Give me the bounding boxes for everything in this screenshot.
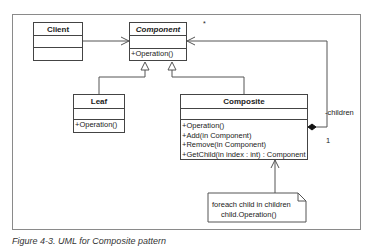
class-leaf: Leaf +Operation(): [73, 94, 125, 133]
class-client-operations: [34, 48, 82, 60]
class-component-operations: +Operation(): [130, 49, 186, 61]
operation: +Operation(): [75, 120, 123, 130]
class-client: Client: [33, 22, 83, 61]
class-composite-attributes: [181, 109, 307, 120]
class-client-attributes: [34, 36, 82, 48]
operation: +Remove(in Component): [182, 140, 306, 150]
class-leaf-attributes: [74, 109, 124, 120]
operation: +Operation(): [182, 121, 306, 131]
class-composite-operations: +Operation() +Add(in Component) +Remove(…: [181, 120, 307, 160]
operation: +Add(in Component): [182, 131, 306, 141]
class-component-name: Component: [130, 23, 186, 36]
note-line-2: child.Operation(): [212, 210, 291, 220]
multiplicity-many-label: *: [203, 20, 206, 27]
note-text: foreach child in children child.Operatio…: [212, 200, 291, 220]
class-leaf-name: Leaf: [74, 95, 124, 109]
class-composite-name: Composite: [181, 95, 307, 109]
class-client-name: Client: [34, 23, 82, 36]
class-leaf-operations: +Operation(): [74, 120, 124, 132]
role-children-label: -children: [325, 108, 354, 117]
note-line-1: foreach child in children: [212, 200, 291, 210]
class-composite: Composite +Operation() +Add(in Component…: [180, 94, 308, 160]
class-component-attributes: [130, 36, 186, 49]
multiplicity-one-label: 1: [326, 136, 330, 145]
class-component: Component +Operation(): [129, 22, 187, 61]
operation: +Operation(): [131, 49, 185, 59]
operation: +GetChild(in index : int) : Component: [182, 150, 306, 160]
figure-caption: Figure 4-3. UML for Composite pattern: [12, 236, 166, 246]
